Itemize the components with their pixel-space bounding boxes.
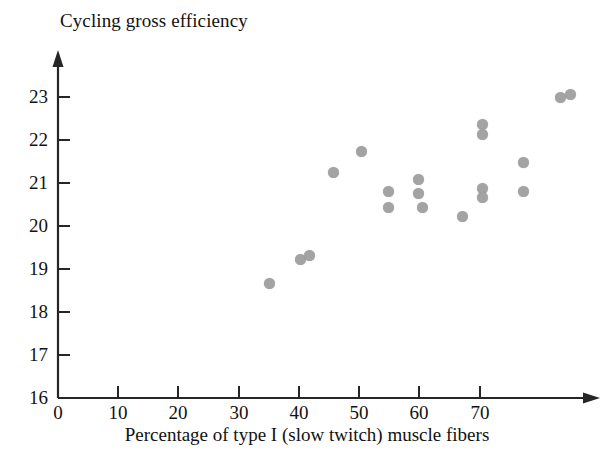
y-tick-label-20: 20 <box>14 215 48 237</box>
y-axis-arrowhead <box>53 50 64 67</box>
plot-canvas <box>0 0 614 463</box>
x-tick-label-10: 10 <box>98 402 138 424</box>
data-point <box>518 186 529 197</box>
y-tick-label-22: 22 <box>14 129 48 151</box>
y-tick-label-18: 18 <box>14 301 48 323</box>
data-point <box>457 211 468 222</box>
x-tick-label-40: 40 <box>279 402 319 424</box>
y-tick-label-23: 23 <box>14 86 48 108</box>
data-point <box>477 192 488 203</box>
data-point <box>328 167 339 178</box>
data-point <box>477 129 488 140</box>
y-tick-label-21: 21 <box>14 172 48 194</box>
x-tick-label-20: 20 <box>158 402 198 424</box>
x-tick-label-50: 50 <box>339 402 379 424</box>
x-tick-label-0: 0 <box>38 402 78 424</box>
x-tick-label-70: 70 <box>460 402 500 424</box>
data-point <box>518 157 529 168</box>
data-point <box>413 174 424 185</box>
x-tick-label-60: 60 <box>399 402 439 424</box>
x-axis-label: Percentage of type I (slow twitch) muscl… <box>0 424 614 446</box>
data-point <box>555 92 566 103</box>
data-point <box>304 250 315 261</box>
data-point <box>417 202 428 213</box>
y-axis-ticks <box>58 97 70 398</box>
data-point <box>477 119 488 130</box>
data-point <box>565 89 576 100</box>
data-point <box>383 202 394 213</box>
y-tick-label-17: 17 <box>14 344 48 366</box>
data-point <box>356 146 367 157</box>
data-point <box>413 188 424 199</box>
data-point <box>383 186 394 197</box>
x-tick-label-30: 30 <box>219 402 259 424</box>
y-tick-label-19: 19 <box>14 258 48 280</box>
x-axis-ticks <box>58 386 480 398</box>
x-axis-arrowhead <box>583 393 600 404</box>
data-point <box>264 278 275 289</box>
scatter-plot-figure: Cycling gross efficiency <box>0 0 614 463</box>
